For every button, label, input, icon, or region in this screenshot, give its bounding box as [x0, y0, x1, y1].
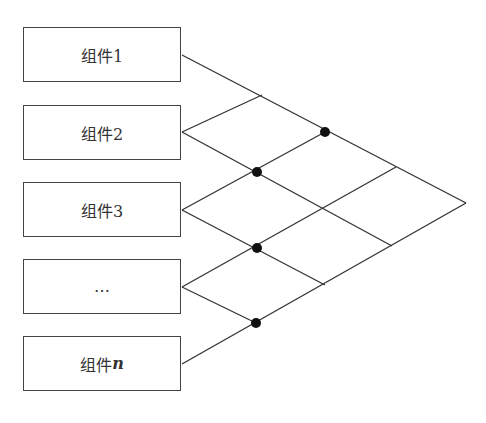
- connector-line: [182, 203, 466, 364]
- junction-dot: [320, 127, 330, 137]
- junction-dot: [251, 318, 261, 328]
- junction-dot: [252, 243, 262, 253]
- connection-lattice: [0, 0, 486, 423]
- connector-line: [182, 132, 392, 246]
- connector-line: [182, 287, 256, 323]
- connector-line: [182, 95, 262, 132]
- junction-dot: [252, 167, 262, 177]
